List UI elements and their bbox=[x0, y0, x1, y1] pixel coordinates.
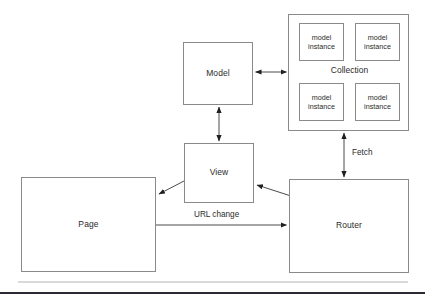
model-instance-label: modelinstance bbox=[364, 33, 391, 51]
model-instance-box: modelinstance bbox=[299, 83, 344, 121]
model-instance-line2: instance bbox=[364, 42, 391, 51]
node-view: View bbox=[184, 143, 254, 203]
footer-light-rule bbox=[18, 281, 408, 283]
node-page: Page bbox=[21, 177, 156, 272]
footer-dark-rule bbox=[0, 292, 425, 294]
edge-label-fetch: Fetch bbox=[352, 148, 372, 157]
model-instance-line2: instance bbox=[364, 102, 391, 111]
model-instance-line1: model bbox=[312, 33, 332, 42]
edge-label-url-change: URL change bbox=[194, 210, 239, 219]
node-router-label: Router bbox=[336, 221, 362, 231]
node-collection-label: Collection bbox=[289, 65, 410, 75]
edge-router-view bbox=[257, 185, 291, 196]
model-instance-line2: instance bbox=[308, 42, 335, 51]
model-instance-line1: model bbox=[368, 33, 388, 42]
model-instance-label: modelinstance bbox=[364, 93, 391, 111]
node-page-label: Page bbox=[78, 220, 98, 230]
node-collection: modelinstance modelinstance modelinstanc… bbox=[288, 14, 409, 131]
model-instance-label: modelinstance bbox=[308, 93, 335, 111]
diagram-canvas: Model View Page Router modelinstance mod… bbox=[0, 0, 425, 303]
model-instance-box: modelinstance bbox=[355, 23, 400, 61]
model-instance-label: modelinstance bbox=[308, 33, 335, 51]
model-instance-line1: model bbox=[368, 93, 388, 102]
node-model: Model bbox=[183, 42, 253, 105]
node-model-label: Model bbox=[206, 69, 230, 79]
model-instance-box: modelinstance bbox=[355, 83, 400, 121]
node-view-label: View bbox=[210, 168, 229, 178]
edge-view-page bbox=[159, 181, 184, 194]
node-router: Router bbox=[289, 179, 409, 273]
model-instance-line1: model bbox=[312, 93, 332, 102]
model-instance-line2: instance bbox=[308, 102, 335, 111]
model-instance-box: modelinstance bbox=[299, 23, 344, 61]
